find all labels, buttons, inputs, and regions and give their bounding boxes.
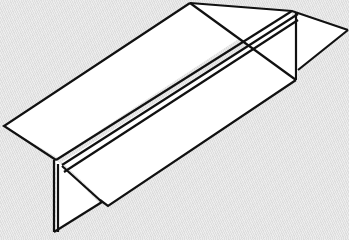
folded-paper-diagram xyxy=(0,0,349,238)
diagram-canvas xyxy=(0,0,349,238)
